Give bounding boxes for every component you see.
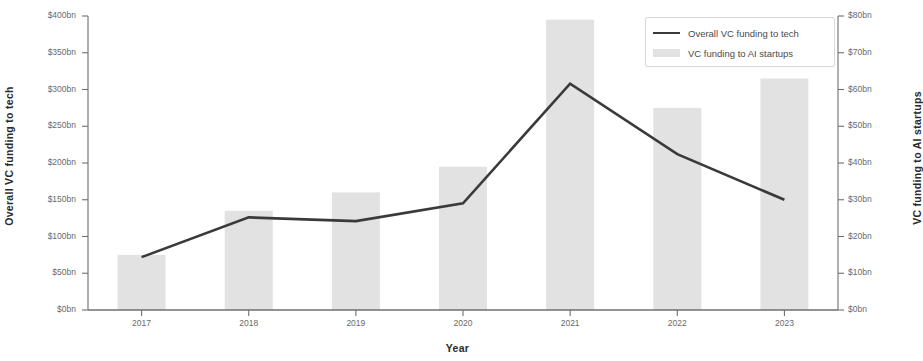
y-left-tick-150: $150bn	[20, 194, 76, 204]
y-left-tick-200: $200bn	[20, 157, 76, 167]
x-tick-2023: 2023	[754, 318, 814, 328]
bar-2019	[332, 192, 380, 310]
y-left-tick-300: $300bn	[20, 84, 76, 94]
legend-item-bar[interactable]: VC funding to AI startups	[653, 43, 827, 63]
y-right-tick-0: $0bn	[848, 304, 904, 314]
bar-2018	[225, 211, 273, 310]
x-tick-2018: 2018	[219, 318, 279, 328]
x-tick-2021: 2021	[540, 318, 600, 328]
chart-legend: Overall VC funding to tech VC funding to…	[645, 17, 835, 67]
y-left-tick-400: $400bn	[20, 10, 76, 20]
y-left-tick-0: $0bn	[20, 304, 76, 314]
y-right-tick-40: $40bn	[848, 157, 904, 167]
x-tick-2022: 2022	[647, 318, 707, 328]
x-tick-2020: 2020	[433, 318, 493, 328]
y-right-tick-80: $80bn	[848, 10, 904, 20]
bar-swatch-icon	[653, 49, 680, 57]
y-right-tick-50: $50bn	[848, 120, 904, 130]
bar-2023	[760, 79, 808, 311]
bar-2020	[439, 167, 487, 310]
bar-2017	[118, 255, 166, 310]
y-left-tick-350: $350bn	[20, 47, 76, 57]
x-tick-2017: 2017	[112, 318, 172, 328]
x-tick-2019: 2019	[326, 318, 386, 328]
y-right-tick-20: $20bn	[848, 231, 904, 241]
legend-label-bar: VC funding to AI startups	[688, 48, 793, 59]
bar-2021	[546, 20, 594, 310]
y-left-tick-100: $100bn	[20, 231, 76, 241]
legend-label-line: Overall VC funding to tech	[688, 28, 799, 39]
y-left-tick-50: $50bn	[20, 267, 76, 277]
y-right-tick-70: $70bn	[848, 47, 904, 57]
legend-item-line[interactable]: Overall VC funding to tech	[653, 23, 827, 43]
y-left-tick-250: $250bn	[20, 120, 76, 130]
y-right-tick-60: $60bn	[848, 84, 904, 94]
bar-2022	[653, 108, 701, 310]
line-swatch-icon	[653, 32, 680, 34]
y-right-tick-10: $10bn	[848, 267, 904, 277]
y-right-tick-30: $30bn	[848, 194, 904, 204]
